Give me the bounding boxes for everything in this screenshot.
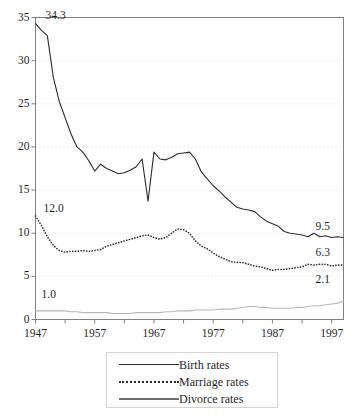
y-axis-ticks [32,18,36,320]
series-line-marriage-rates [36,216,344,270]
solid-line-key [117,359,179,370]
series-line-birth-rates [36,24,344,238]
annotation-divorce-start: 1.0 [42,289,56,301]
annotation-birth-end: 9.5 [316,221,330,233]
figure-container: 05101520253035 194719571967197719871997 … [0,0,358,418]
annotation-divorce-end: 2.1 [316,274,330,286]
dotted-line-key [117,376,179,387]
x-tick-label: 1997 [310,328,354,340]
x-tick-label: 1957 [73,328,117,340]
y-tick-label: 30 [6,55,30,67]
y-tick-label: 25 [6,98,30,110]
legend-item-divorce-rates[interactable]: Divorcerates [107,390,277,407]
chart-legend: Birthrates Marriagerates Divorcerates [106,352,278,408]
annotation-marriage-end: 6.3 [316,247,330,259]
y-tick-label: 15 [6,184,30,196]
x-tick-label: 1947 [14,328,58,340]
x-tick-label: 1967 [132,328,176,340]
y-tick-label: 35 [6,12,30,24]
plot-frame [36,18,344,320]
gridlines [36,18,344,277]
legend-item-birth-rates[interactable]: Birthrates [107,356,277,373]
series-line-divorce-rates [36,301,344,313]
legend-item-label: Birthrates [179,359,229,371]
x-tick-label: 1987 [250,328,294,340]
legend-item-label: Marriagerates [179,376,249,388]
data-series-layer [36,24,344,314]
legend-item-marriage-rates[interactable]: Marriagerates [107,373,277,390]
legend-item-label: Divorcerates [179,393,243,405]
annotation-marriage-start: 12.0 [44,203,64,215]
y-tick-label: 5 [6,270,30,282]
x-tick-label: 1977 [191,328,235,340]
thick-line-key [117,393,179,404]
annotation-birth-start: 34.3 [46,10,66,22]
y-tick-label: 0 [6,314,30,326]
x-axis-ticks [36,320,332,324]
y-tick-label: 10 [6,227,30,239]
y-tick-label: 20 [6,141,30,153]
